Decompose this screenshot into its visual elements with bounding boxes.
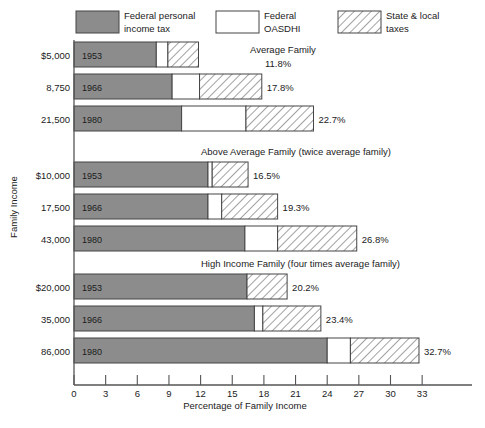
bar-year-label: 1966 bbox=[82, 203, 102, 213]
group-caption: Average Family bbox=[250, 44, 316, 55]
bar-total-label: 19.3% bbox=[283, 202, 310, 213]
x-tick-label: 0 bbox=[71, 388, 76, 399]
x-tick-label: 6 bbox=[135, 388, 140, 399]
bar-total-label: 22.7% bbox=[318, 114, 345, 125]
bar-year-label: 1966 bbox=[82, 315, 102, 325]
bar-total-label: 32.7% bbox=[424, 346, 451, 357]
legend-label-line2: income tax bbox=[124, 23, 170, 34]
income-label: 35,000 bbox=[41, 314, 70, 325]
bar-year-label: 1953 bbox=[82, 51, 102, 61]
legend-label-line1: State & local bbox=[386, 10, 439, 21]
legend-label-line1: Federal personal bbox=[124, 10, 195, 21]
bar-group: High Income Family (four times average f… bbox=[36, 258, 452, 363]
segment-federal-oasdhi bbox=[208, 162, 212, 187]
segment-federal-oasdhi bbox=[156, 42, 168, 67]
segment-state-local-taxes bbox=[200, 74, 262, 99]
income-label: $20,000 bbox=[36, 282, 70, 293]
legend-swatch-hatch bbox=[338, 11, 381, 33]
bar-year-label: 1980 bbox=[82, 347, 102, 357]
x-tick-label: 3 bbox=[103, 388, 108, 399]
group-caption: Above Average Family (twice average fami… bbox=[201, 146, 391, 157]
bar-year-label: 1980 bbox=[82, 235, 102, 245]
segment-federal-oasdhi bbox=[254, 306, 262, 331]
segment-state-local-taxes bbox=[247, 274, 287, 299]
income-label: 8,750 bbox=[46, 82, 70, 93]
x-tick-label: 9 bbox=[166, 388, 171, 399]
x-tick-label: 12 bbox=[195, 388, 206, 399]
y-axis-title: Family Income bbox=[8, 176, 19, 238]
legend-item-state-local-taxes: State & local taxes bbox=[338, 10, 439, 34]
income-label: 17,500 bbox=[41, 202, 70, 213]
income-label: 21,500 bbox=[41, 114, 70, 125]
x-axis: 03691215182124273033 Percentage of Famil… bbox=[71, 375, 472, 411]
plot-area: Average Family$5,000195311.8%8,750196617… bbox=[36, 42, 452, 363]
legend: Federal personal income tax Federal OASD… bbox=[76, 10, 439, 34]
income-label: $5,000 bbox=[41, 50, 70, 61]
stacked-bar-chart: Federal personal income tax Federal OASD… bbox=[0, 0, 485, 428]
group-caption: High Income Family (four times average f… bbox=[201, 258, 400, 269]
legend-item-federal-oasdhi: Federal OASDHI bbox=[216, 10, 300, 34]
segment-federal-oasdhi bbox=[172, 74, 199, 99]
segment-federal-oasdhi bbox=[208, 194, 222, 219]
bar-row: 35,000196623.4% bbox=[41, 306, 353, 331]
income-label: $10,000 bbox=[36, 170, 70, 181]
segment-state-local-taxes bbox=[212, 162, 248, 187]
x-tick-label: 15 bbox=[227, 388, 238, 399]
legend-swatch-white bbox=[216, 11, 259, 33]
bar-row: $20,000195320.2% bbox=[36, 274, 320, 299]
x-axis-title: Percentage of Family Income bbox=[183, 400, 307, 411]
x-tick-label: 18 bbox=[259, 388, 270, 399]
bar-row: 43,000198026.8% bbox=[41, 226, 389, 251]
bar-total-label: 20.2% bbox=[292, 282, 319, 293]
bar-total-label: 11.8% bbox=[265, 58, 292, 69]
x-tick-label: 27 bbox=[354, 388, 365, 399]
bar-total-label: 26.8% bbox=[362, 234, 389, 245]
x-tick-label: 33 bbox=[417, 388, 428, 399]
legend-label-line1: Federal bbox=[264, 10, 296, 21]
bar-row: 21,500198022.7% bbox=[41, 106, 346, 131]
x-tick-label: 30 bbox=[385, 388, 396, 399]
bar-row: 17,500196619.3% bbox=[41, 194, 310, 219]
legend-label-line2: taxes bbox=[386, 23, 409, 34]
income-label: 43,000 bbox=[41, 234, 70, 245]
bar-year-label: 1980 bbox=[82, 115, 102, 125]
bar-year-label: 1953 bbox=[82, 171, 102, 181]
bar-group: Above Average Family (twice average fami… bbox=[36, 146, 391, 251]
segment-federal-income-tax bbox=[74, 338, 327, 363]
bar-row: $10,000195316.5% bbox=[36, 162, 281, 187]
segment-state-local-taxes bbox=[168, 42, 199, 67]
bar-year-label: 1966 bbox=[82, 83, 102, 93]
bar-row: 8,750196617.8% bbox=[46, 74, 294, 99]
bar-total-label: 23.4% bbox=[326, 314, 353, 325]
bar-total-label: 17.8% bbox=[267, 82, 294, 93]
x-tick-group: 03691215182124273033 bbox=[71, 375, 427, 399]
segment-federal-oasdhi bbox=[182, 106, 246, 131]
legend-label-line2: OASDHI bbox=[264, 23, 300, 34]
income-label: 86,000 bbox=[41, 346, 70, 357]
segment-state-local-taxes bbox=[278, 226, 357, 251]
bar-total-label: 16.5% bbox=[253, 170, 280, 181]
segment-federal-oasdhi bbox=[245, 226, 278, 251]
bar-year-label: 1953 bbox=[82, 283, 102, 293]
segment-state-local-taxes bbox=[263, 306, 321, 331]
legend-swatch-gray bbox=[76, 11, 119, 33]
segment-state-local-taxes bbox=[222, 194, 278, 219]
bar-row: 86,000198032.7% bbox=[41, 338, 452, 363]
segment-federal-oasdhi bbox=[327, 338, 350, 363]
segment-state-local-taxes bbox=[246, 106, 314, 131]
legend-item-federal-income-tax: Federal personal income tax bbox=[76, 10, 195, 34]
x-tick-label: 21 bbox=[290, 388, 301, 399]
segment-state-local-taxes bbox=[350, 338, 419, 363]
bar-group: Average Family$5,000195311.8%8,750196617… bbox=[41, 42, 346, 131]
x-tick-label: 24 bbox=[322, 388, 333, 399]
